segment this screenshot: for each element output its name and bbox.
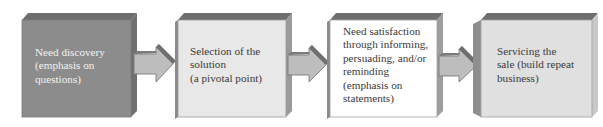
process-flow-diagram: Need discovery (emphasis on questions) S… xyxy=(0,0,603,127)
step-label-need-discovery: Need discovery (emphasis on questions) xyxy=(35,46,105,86)
right-arrow-icon xyxy=(134,44,176,82)
right-arrow-icon xyxy=(288,45,329,82)
step-label-servicing-the-sale: Servicing the sale (build repeat busines… xyxy=(497,45,574,85)
step-label-need-satisfaction: Need satisfaction through informing, per… xyxy=(343,25,428,105)
step-label-selection-of-solution: Selection of the solution (a pivotal poi… xyxy=(190,45,262,85)
